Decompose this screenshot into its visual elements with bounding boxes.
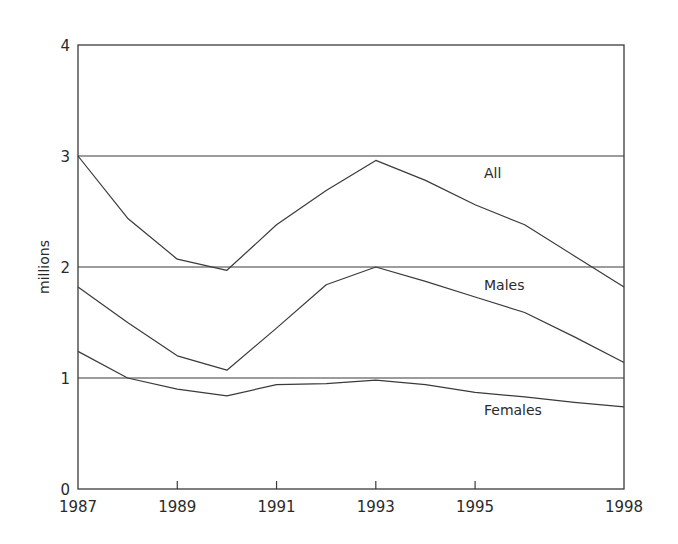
line-chart: 198719891991199319951998 01234 millions … <box>0 0 678 544</box>
y-tick-label: 2 <box>60 259 70 277</box>
x-tick-label: 1989 <box>158 498 196 516</box>
y-axis-label: millions <box>36 240 52 294</box>
x-tick-label: 1987 <box>59 498 97 516</box>
y-tick-label: 4 <box>60 37 70 55</box>
x-tick-label: 1998 <box>605 498 643 516</box>
x-tick-label: 1991 <box>257 498 295 516</box>
x-axis: 198719891991199319951998 <box>59 481 643 516</box>
x-tick-label: 1995 <box>456 498 494 516</box>
series-line-females <box>78 351 624 407</box>
series-lines <box>78 156 624 407</box>
y-axis: 01234 <box>60 37 70 499</box>
series-label-all: All <box>484 165 501 181</box>
y-tick-label: 0 <box>60 481 70 499</box>
y-tick-label: 1 <box>60 370 70 388</box>
series-line-males <box>78 267 624 370</box>
x-tick-label: 1993 <box>357 498 395 516</box>
series-label-males: Males <box>484 277 524 293</box>
series-label-females: Females <box>484 402 542 418</box>
y-tick-label: 3 <box>60 148 70 166</box>
